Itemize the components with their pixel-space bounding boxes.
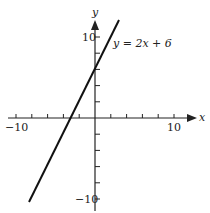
x-axis-arrow-icon — [187, 114, 197, 122]
y-axis-arrow-icon — [91, 20, 99, 30]
y-axis-label: y — [91, 6, 99, 19]
y-max-label: 10 — [82, 31, 96, 44]
equation-label: y = 2x + 6 — [112, 37, 172, 50]
x-max-label: 10 — [167, 121, 181, 134]
series-line-y-2x-6 — [29, 20, 119, 202]
coordinate-plane: −10 10 x y 10 −10 y = 2x + 6 — [0, 0, 210, 213]
x-axis-label: x — [199, 111, 206, 124]
y-min-label: −10 — [75, 193, 98, 206]
x-min-label: −10 — [5, 121, 28, 134]
